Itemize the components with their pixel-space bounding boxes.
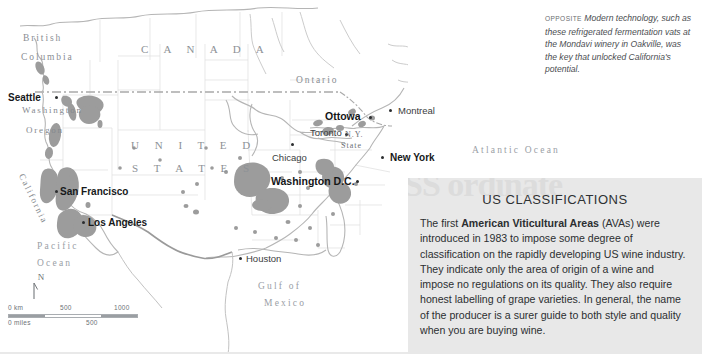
north-arrow-icon [28,282,40,300]
map-label-ottowa: Ottowa [325,110,361,122]
map-label-ny-state-line2: State [341,141,362,150]
scale-miles-row: 0 miles 500 [8,319,138,328]
us-classifications-panel: SS ordinate US CLASSIFICATIONS The first… [408,178,702,354]
map-dot-san-francisco [55,190,58,193]
panel-body: The first American Viticultural Areas (A… [420,216,690,338]
map-dot-new-york [381,156,384,159]
map-dot-houston [239,257,242,260]
map-dot-montreal [389,109,392,112]
map-label-gulf-line1: Gulf of [258,281,301,291]
map-label-gulf-line2: Mexico [264,298,306,308]
map-label-montreal: Montreal [398,105,435,116]
panel-paragraph-rest: (AVAs) were introduced in 1983 to impose… [420,217,685,336]
map-dot-chicago [291,143,294,146]
map-label-united: U N I T E D [131,139,257,151]
map-label-pacific-line2: Ocean [37,258,72,268]
map-label-toronto: Toronto [310,127,342,138]
scale-km-mid: 500 [60,304,72,311]
map-label-washington-dc: Washington D.C. [271,175,355,187]
map-label-atlantic: Atlantic Ocean [472,145,560,155]
scale-km-row: 0 km 500 1000 [8,304,138,313]
map-label-new-york: New York [390,152,435,163]
scale-miles-zero: 0 miles [8,319,31,326]
map-label-washington-state: Washington [22,105,83,115]
map-label-ny-state-line1: N.Y. [345,130,364,139]
caption-kicker: opposite [545,15,582,22]
map-label-ontario: Ontario [296,75,338,85]
panel-paragraph-lead: The first [420,217,461,229]
map-label-chicago: Chicago [272,152,307,163]
compass-north-label: N [28,272,54,282]
map-label-states: S T A T E S [132,162,256,174]
map-label-san-francisco: San Francisco [60,186,128,197]
map-label-los-angeles: Los Angeles [88,217,147,228]
panel-paragraph-bold: American Viticultural Areas [461,217,599,229]
caption-text: Modern technology, such as these refrige… [545,13,691,74]
map-label-seattle: Seattle [8,92,41,103]
figure-caption: opposite Modern technology, such as thes… [545,12,695,76]
scale-bar: 0 km 500 1000 0 miles 500 [8,304,138,328]
map-dot-washington-dc [356,180,359,183]
map-label-columbia: Columbia [21,52,74,62]
map-label-pacific-line1: Pacific [37,241,79,251]
map-dot-ottowa [369,116,372,119]
map-label-british: British [23,33,62,43]
scale-bar-graphic [8,314,138,318]
map-figure: British Columbia C A N A D A Ontario Sea… [0,0,702,354]
map-label-houston: Houston [246,253,281,264]
map-label-canada: C A N A D A [141,43,270,55]
map-label-oregon: Oregon [26,125,64,135]
scale-km-end: 1000 [114,304,130,311]
map-dot-seattle [55,96,58,99]
map-dot-los-angeles [82,221,85,224]
scale-km-zero: 0 km [8,304,23,311]
compass: N [28,272,54,300]
scale-miles-mid: 500 [86,319,98,326]
panel-heading: US CLASSIFICATIONS [408,192,702,207]
